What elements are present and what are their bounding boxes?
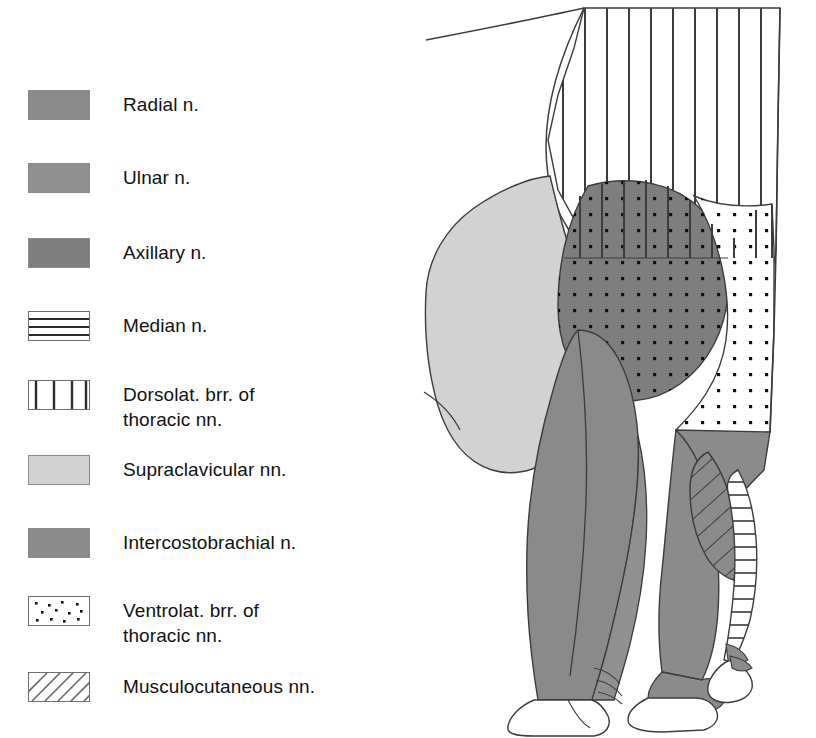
vertical-lines-pattern-icon — [29, 381, 89, 409]
legend: Radial n. Ulnar n. Axillary n. — [0, 0, 410, 738]
diagonal-lines-pattern-icon — [29, 673, 89, 701]
legend-item-radial[interactable]: Radial n. — [28, 90, 199, 120]
legend-label-median: Median n. — [123, 311, 207, 338]
legend-item-axillary[interactable]: Axillary n. — [28, 238, 206, 268]
legend-item-median[interactable]: Median n. — [28, 311, 207, 341]
legend-label-radial: Radial n. — [123, 90, 199, 117]
legend-item-musculocutaneous[interactable]: Musculocutaneous nn. — [28, 672, 315, 702]
legend-item-supraclavicular[interactable]: Supraclavicular nn. — [28, 455, 286, 485]
swatch-ulnar — [28, 163, 90, 193]
limb-diagram-svg — [408, 0, 816, 738]
swatch-median — [28, 311, 90, 341]
legend-label-ventrolateral-thoracic: Ventrolat. brr. of thoracic nn. — [123, 596, 259, 648]
swatch-intercostobrachial — [28, 528, 90, 558]
swatch-dorsolateral-thoracic — [28, 380, 90, 410]
legend-item-intercostobrachial[interactable]: Intercostobrachial n. — [28, 528, 296, 558]
legend-label-axillary: Axillary n. — [123, 238, 206, 265]
legend-item-ventrolateral-thoracic[interactable]: Ventrolat. brr. of thoracic nn. — [28, 596, 259, 648]
legend-label-intercostobrachial: Intercostobrachial n. — [123, 528, 296, 555]
limb-diagram — [408, 0, 816, 738]
hoof-near-limb — [508, 700, 609, 736]
swatch-radial — [28, 90, 90, 120]
horizontal-lines-pattern-icon — [29, 312, 89, 340]
legend-label-supraclavicular: Supraclavicular nn. — [123, 455, 286, 482]
hoof-far-limb — [628, 698, 718, 732]
swatch-supraclavicular — [28, 455, 90, 485]
topline-contour — [426, 8, 584, 40]
swatch-axillary — [28, 238, 90, 268]
legend-item-dorsolateral-thoracic[interactable]: Dorsolat. brr. of thoracic nn. — [28, 380, 255, 432]
legend-label-ulnar: Ulnar n. — [123, 163, 190, 190]
figure-canvas: Radial n. Ulnar n. Axillary n. — [0, 0, 816, 738]
legend-label-dorsolateral-thoracic: Dorsolat. brr. of thoracic nn. — [123, 380, 255, 432]
legend-label-musculocutaneous: Musculocutaneous nn. — [123, 672, 315, 699]
swatch-ventrolateral-thoracic — [28, 596, 90, 626]
swatch-musculocutaneous — [28, 672, 90, 702]
dots-pattern-icon — [29, 597, 89, 625]
legend-item-ulnar[interactable]: Ulnar n. — [28, 163, 190, 193]
